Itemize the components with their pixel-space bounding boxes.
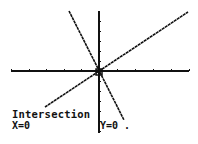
- calculator-screen: Intersection X=0 Y=0 .: [0, 0, 198, 144]
- y-value-label: Y=0 .: [100, 121, 130, 131]
- x-value-label: X=0: [12, 121, 30, 131]
- intersection-title: Intersection: [12, 109, 90, 120]
- shallow-line: [45, 12, 188, 107]
- steep-line: [69, 11, 124, 120]
